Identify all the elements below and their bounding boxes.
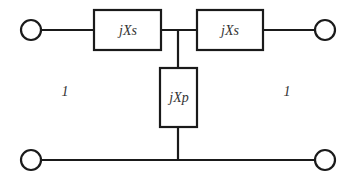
port-left-label: 1	[62, 84, 69, 100]
terminal-top-right-icon	[315, 20, 335, 40]
port-right-label: 1	[284, 84, 291, 100]
series-left-label: jXs	[119, 23, 137, 39]
terminal-bottom-right-icon	[315, 150, 335, 170]
terminal-top-left-icon	[21, 20, 41, 40]
series-right-label: jXs	[221, 23, 239, 39]
t-network-diagram: jXs jXs jXp 1 1	[0, 0, 354, 182]
terminal-bottom-left-icon	[21, 150, 41, 170]
shunt-label: jXp	[169, 90, 188, 106]
